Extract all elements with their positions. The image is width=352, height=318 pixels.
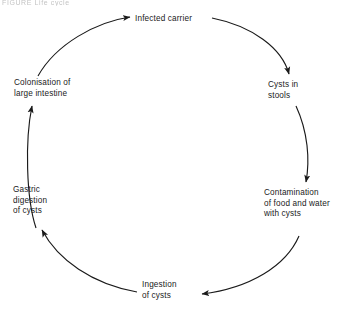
arrow-ingestion-to-gastric — [42, 230, 137, 292]
arrow-colonisation-to-infected-carrier — [38, 17, 130, 76]
node-infected-carrier-line-1: Infected carrier — [135, 14, 192, 25]
node-contamination: Contamination of food and water with cys… — [264, 188, 330, 220]
node-contamination-line-1: Contamination — [264, 188, 330, 199]
node-colonisation-line-1: Colonisation of — [14, 78, 70, 89]
arrow-cysts-to-contamination — [296, 106, 308, 182]
node-contamination-line-2: of food and water — [264, 199, 330, 210]
node-gastric-digestion: Gastric digestion of cysts — [13, 185, 47, 217]
node-cysts-in-stools-line-2: stools — [268, 91, 298, 102]
node-infected-carrier: Infected carrier — [135, 14, 192, 25]
node-colonisation: Colonisation of large intestine — [14, 78, 70, 99]
node-gastric-digestion-line-3: of cysts — [13, 206, 47, 217]
node-gastric-digestion-line-1: Gastric — [13, 185, 47, 196]
node-gastric-digestion-line-2: digestion — [13, 196, 47, 207]
node-cysts-in-stools: Cysts in stools — [268, 80, 298, 101]
arrow-infected-carrier-to-cysts — [212, 18, 289, 74]
node-ingestion-line-1: Ingestion — [142, 280, 177, 291]
arrow-contamination-to-ingestion — [202, 236, 299, 294]
figure-canvas: FIGURE Life cycle Infected carrier Cysts… — [0, 0, 352, 318]
cycle-arrows — [0, 0, 352, 318]
node-colonisation-line-2: large intestine — [14, 89, 70, 100]
node-cysts-in-stools-line-1: Cysts in — [268, 80, 298, 91]
node-ingestion-line-2: of cysts — [142, 291, 177, 302]
node-contamination-line-3: with cysts — [264, 209, 330, 220]
node-ingestion: Ingestion of cysts — [142, 280, 177, 301]
